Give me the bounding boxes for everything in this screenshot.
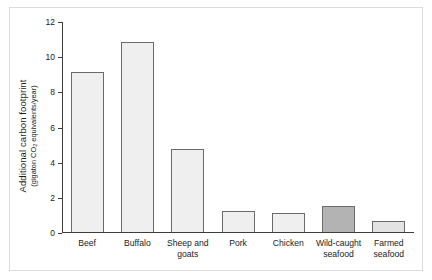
bar [322,206,355,232]
y-tick-label: 10 [46,52,55,62]
bar [171,149,204,232]
y-tick-label: 0 [50,228,55,238]
bar [372,221,405,232]
x-tick-label-line: Farmed [352,238,426,249]
x-axis-labels: BeefBuffaloSheep andgoatsPorkChickenWild… [62,238,414,274]
y-axis-title-units: (gigaton CO2 equivalents/year) [30,85,38,186]
y-units-before: (gigaton CO [29,147,38,187]
y-tick-label: 2 [50,193,55,203]
x-tick-label: Farmedseafood [352,238,426,259]
y-units-after: equivalents/year) [29,85,38,143]
y-units-subscript: 2 [32,144,38,147]
bar-series [62,22,414,232]
y-axis-title-main: Additional carbon footprint [18,80,29,193]
y-tick-label: 8 [50,87,55,97]
chart-figure: Additional carbon footprint (gigaton CO2… [0,0,432,280]
bar [272,213,305,232]
y-tick-mark [58,233,62,234]
plot-area: 024681012 [62,22,414,233]
y-tick-label: 6 [50,123,55,133]
y-tick-label: 12 [46,17,55,27]
y-axis-title: Additional carbon footprint (gigaton CO2… [14,38,42,234]
x-tick-label-line: seafood [352,249,426,260]
bar [71,72,104,232]
x-tick-label-line: goats [151,249,225,260]
bar [222,211,255,232]
bar [121,42,154,232]
y-tick-label: 4 [50,158,55,168]
